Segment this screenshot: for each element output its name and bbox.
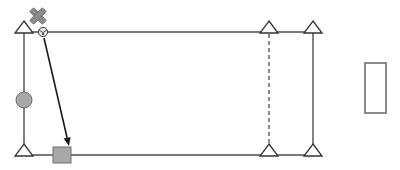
- cross-icon[interactable]: [25, 3, 50, 28]
- diagram-canvas: [0, 0, 400, 170]
- node-bottom-right-triangle[interactable]: [304, 144, 322, 156]
- square-joint-handle[interactable]: [53, 147, 71, 163]
- node-top-mid-triangle[interactable]: [260, 21, 278, 33]
- node-bottom-mid-triangle[interactable]: [260, 144, 278, 156]
- ball-icon[interactable]: [38, 27, 47, 36]
- detached-panel[interactable]: [365, 63, 386, 113]
- node-bottom-left-triangle[interactable]: [15, 144, 33, 156]
- drag-arrow-shaft: [44, 38, 67, 138]
- ball-icon-dot: [42, 33, 44, 35]
- supports-group: [15, 21, 322, 156]
- diagram-svg: [0, 0, 400, 170]
- drag-arrow[interactable]: [44, 38, 71, 146]
- drag-arrow-head: [64, 137, 71, 146]
- circular-joint-handle[interactable]: [16, 92, 32, 108]
- node-top-left-triangle[interactable]: [15, 21, 33, 33]
- ball-icon-body: [38, 27, 47, 36]
- node-top-right-triangle[interactable]: [304, 21, 322, 33]
